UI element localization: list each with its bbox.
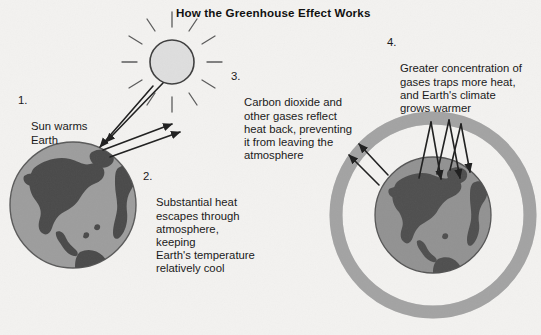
callout-heat-escapes: 2. Substantial heat escapes through atmo… <box>143 170 261 289</box>
earth-globe-left-icon <box>10 142 136 310</box>
callout-4-number: 4. <box>387 36 396 49</box>
callout-gases-reflect-heat: 3. Carbon dioxide and other gases reflec… <box>231 70 353 176</box>
callout-1-text: Sun warms Earth <box>31 120 130 146</box>
callout-3-number: 3. <box>231 70 240 83</box>
callout-1-number: 1. <box>18 94 27 107</box>
callout-4-text: Greater concentration of gases traps mor… <box>400 62 535 115</box>
sun-icon <box>122 12 222 112</box>
callout-3-text: Carbon dioxide and other gases reflect h… <box>244 96 353 162</box>
callout-2-text: Substantial heat escapes through atmosph… <box>156 196 261 275</box>
callout-sun-warms-earth: 1. Sun warms Earth <box>18 94 130 160</box>
callout-2-number: 2. <box>143 170 152 183</box>
earth-globe-right-icon <box>375 157 491 311</box>
callout-climate-warms: 4. Greater concentration of gases traps … <box>387 36 535 128</box>
greenhouse-effect-diagram: How the Greenhouse Effect Works 1. Sun w… <box>0 0 541 335</box>
page-title: How the Greenhouse Effect Works <box>176 6 370 19</box>
